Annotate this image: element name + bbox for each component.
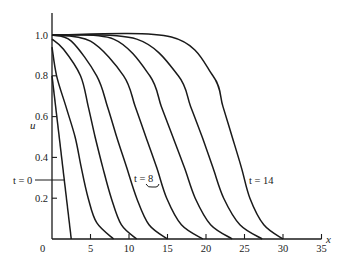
annotation-t14: t = 14 <box>249 175 274 186</box>
x-tick-label: 30 <box>278 243 289 254</box>
curve-t10 <box>52 35 232 239</box>
x-tick-label: 20 <box>201 243 212 254</box>
y-tick-label: 0.6 <box>35 111 48 122</box>
curve-t4 <box>52 39 137 239</box>
curve-t6 <box>52 35 168 239</box>
curve-t12 <box>52 35 262 239</box>
x-axis-label: x <box>325 233 331 245</box>
leader-t8 <box>146 184 159 187</box>
annotation-t8: t = 8 <box>134 173 153 184</box>
curves <box>52 33 283 239</box>
curve-t2 <box>52 47 114 239</box>
chart: 51015202530350.20.40.60.81.0 u x 0 t = 0… <box>0 0 346 266</box>
x-tick-label: 5 <box>88 243 93 254</box>
y-tick-label: 0.2 <box>35 193 48 204</box>
x-tick-label: 25 <box>239 243 250 254</box>
y-tick-label: 1.0 <box>35 30 48 41</box>
y-tick-label: 0.4 <box>35 152 49 163</box>
curve-t14 <box>52 33 283 239</box>
x-tick-label: 15 <box>162 243 173 254</box>
y-tick-label: 0.8 <box>35 70 48 81</box>
origin-label: 0 <box>40 243 45 254</box>
x-tick-label: 10 <box>124 243 135 254</box>
labels: u x 0 t = 0 t = 8 t = 14 <box>13 119 331 254</box>
annotation-t0: t = 0 <box>13 175 32 186</box>
y-axis-label: u <box>30 119 36 131</box>
